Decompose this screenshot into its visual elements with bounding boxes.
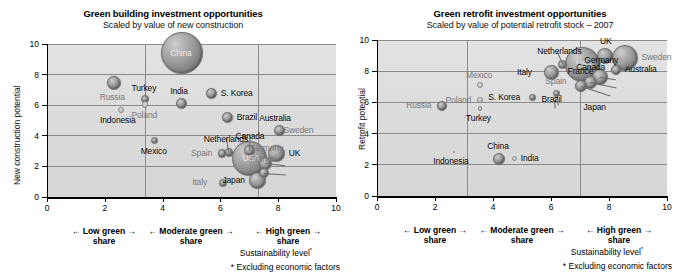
- category-band-line2: share: [228, 236, 348, 246]
- bubble-spain: [218, 149, 226, 157]
- bubble-label-mexico: Mexico: [466, 71, 492, 80]
- bubble-label-turkey: Turkey: [466, 114, 491, 123]
- y-axis-line: [47, 44, 48, 197]
- x-tick-0: [377, 197, 378, 201]
- bubble-label-sweden: Sweden: [283, 126, 313, 135]
- y-tick-label-2: 2: [347, 160, 369, 170]
- y-tick-2: [42, 166, 47, 167]
- bubble-label-brazil: Brazil: [542, 95, 562, 104]
- x-tick-label-2: 2: [423, 202, 447, 212]
- gridline-y-4: [47, 135, 336, 136]
- x-axis-line: [377, 196, 668, 198]
- category-band-3: ← High green →share: [228, 226, 348, 246]
- x-tick-label-6: 6: [208, 203, 232, 213]
- category-band-line1: ← High green →: [228, 226, 348, 236]
- x-axis-label-left: Sustainability level*: [206, 247, 346, 258]
- bubble-label-netherlands: Netherlands: [537, 47, 581, 56]
- y-tick-4: [42, 135, 47, 136]
- x-tick-4: [163, 198, 164, 202]
- y-tick-label-0: 0: [347, 191, 369, 201]
- bubble-india: [176, 98, 187, 109]
- bubble-russia: [107, 76, 121, 90]
- y-tick-label-6: 6: [17, 100, 39, 110]
- bubble-label-s-korea: S. Korea: [221, 89, 253, 98]
- y-tick-label-8: 8: [347, 66, 369, 76]
- y-tick-4: [372, 133, 377, 134]
- bubble-mexico: [151, 137, 158, 144]
- chart-panel-green-retrofit: Green retrofit investment opportunities …: [347, 0, 693, 278]
- bubble-label-france: France: [250, 155, 276, 164]
- y-tick-label-10: 10: [17, 39, 39, 49]
- bubble-label-australia: Australia: [625, 65, 657, 74]
- x-tick-4: [493, 197, 494, 201]
- bubble-label-india: India: [521, 154, 539, 163]
- gridline-y-8: [47, 74, 336, 75]
- x-tick-0: [47, 198, 48, 202]
- y-tick-2: [372, 164, 377, 165]
- plot-area-right: SwedenUKNetherlandsUSAItalyAustraliaGerm…: [377, 40, 667, 196]
- figure-root: Green building investment opportunities …: [0, 0, 693, 278]
- bubble-label-poland: Poland: [446, 96, 472, 105]
- x-tick-label-0: 0: [35, 203, 59, 213]
- bubble-label-china: China: [170, 49, 191, 58]
- x-tick-label-2: 2: [93, 203, 117, 213]
- chart-subtitle-right: Scaled by value of potential retrofit st…: [347, 20, 693, 30]
- y-axis-line: [377, 40, 378, 196]
- bubble-label-italy: Italy: [192, 178, 207, 187]
- y-tick-8: [42, 74, 47, 75]
- x-axis-label-asterisk: *: [641, 246, 643, 252]
- gridline-y-2: [47, 166, 336, 167]
- x-axis-label-asterisk: *: [310, 247, 312, 253]
- x-tick-2: [105, 198, 106, 202]
- bubble-label-sweden: Sweden: [642, 53, 672, 62]
- chart-subtitle-left: Scaled by value of new construction: [0, 20, 346, 30]
- bubble-label-australia: Australia: [259, 114, 291, 123]
- bubble-turkey: [478, 106, 483, 111]
- bubble-poland: [142, 101, 148, 107]
- bubble-label-india: India: [170, 87, 188, 96]
- y-tick-label-2: 2: [17, 161, 39, 171]
- bubble-label-spain: Spain: [545, 77, 566, 86]
- y-tick-label-4: 4: [17, 131, 39, 141]
- gridline-y-4: [377, 133, 667, 134]
- bubble-label-turkey: Turkey: [132, 84, 157, 93]
- chart-title-right: Green retrofit investment opportunities: [347, 8, 693, 19]
- x-tick-2: [435, 197, 436, 201]
- x-tick-8: [609, 197, 610, 201]
- x-tick-label-4: 4: [151, 203, 175, 213]
- x-tick-label-0: 0: [365, 202, 389, 212]
- x-tick-8: [278, 198, 279, 202]
- x-tick-label-8: 8: [266, 203, 290, 213]
- chart-panel-green-building: Green building investment opportunities …: [0, 0, 346, 278]
- bubble-label-indonesia: Indonesia: [100, 116, 136, 125]
- gridline-y-6: [47, 105, 336, 106]
- bubble-label-uk: UK: [600, 37, 612, 46]
- y-tick-6: [42, 105, 47, 106]
- bubble-label-s-korea: S. Korea: [488, 93, 520, 102]
- x-axis-label-text: Sustainability level: [240, 248, 310, 258]
- chart-title-left: Green building investment opportunities: [0, 8, 346, 19]
- bubble-s-korea: [206, 88, 217, 99]
- x-tick-6: [220, 198, 221, 202]
- x-tick-label-4: 4: [481, 202, 505, 212]
- x-axis-line: [47, 197, 337, 199]
- bubble-label-brazil: Brazil: [237, 113, 257, 122]
- y-tick-6: [372, 102, 377, 103]
- y-tick-8: [372, 71, 377, 72]
- x-axis-label-right: Sustainability level*: [537, 246, 677, 257]
- bubble-label-uk: UK: [289, 149, 301, 158]
- x-tick-label-6: 6: [539, 202, 563, 212]
- y-tick-0: [372, 196, 377, 197]
- bubble-label-russia: Russia: [100, 93, 125, 102]
- bubble-label-indonesia: Indonesia: [433, 157, 469, 166]
- bubble-label-germany: Germany: [249, 144, 283, 153]
- footnote-left: * Excluding economic factors: [150, 262, 340, 272]
- x-tick-10: [336, 198, 337, 202]
- bubble-label-japan: Japan: [584, 103, 606, 112]
- y-tick-10: [42, 44, 47, 45]
- bubble-brazil: [222, 112, 233, 123]
- y-tick-label-6: 6: [347, 97, 369, 107]
- plot-area-left: ChinaRussiaTurkeyIndiaS. KoreaPolandIndo…: [47, 44, 336, 197]
- bubble-label-canada: Canada: [236, 132, 265, 141]
- bubble-mexico: [477, 82, 483, 88]
